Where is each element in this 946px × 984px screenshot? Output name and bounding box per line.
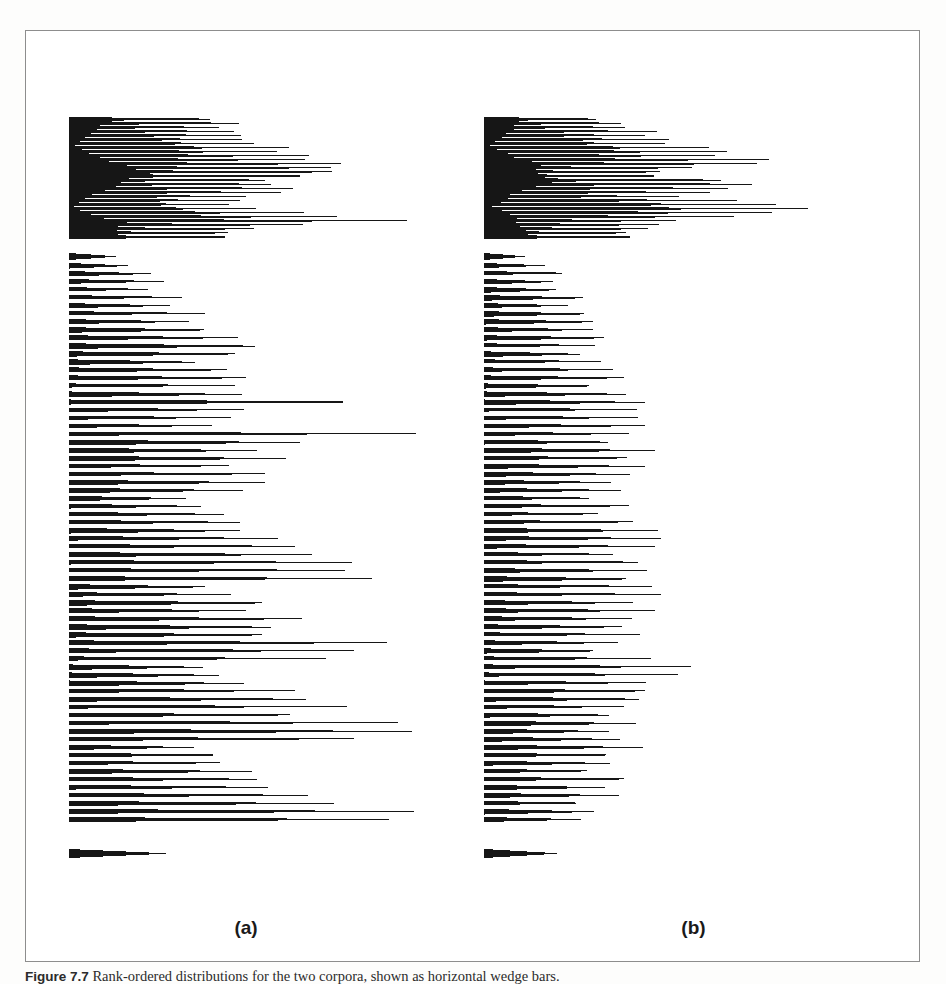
caption-text: Rank-ordered distributions for the two c… bbox=[92, 968, 559, 984]
panel-a: (a) bbox=[26, 31, 466, 961]
panel-b-label: (b) bbox=[466, 917, 921, 939]
figure-frame: (a) (b) bbox=[25, 30, 920, 962]
figure-caption: Figure 7.7 Rank-ordered distributions fo… bbox=[25, 968, 920, 984]
figure-root: (a) (b) Figure 7.7 Rank-ordered distribu… bbox=[0, 0, 946, 984]
chart-panel-a bbox=[26, 31, 466, 936]
panel-b: (b) bbox=[466, 31, 921, 961]
panel-a-label: (a) bbox=[26, 917, 466, 939]
caption-lead: Figure 7.7 bbox=[25, 969, 89, 984]
chart-panel-b bbox=[466, 31, 921, 936]
